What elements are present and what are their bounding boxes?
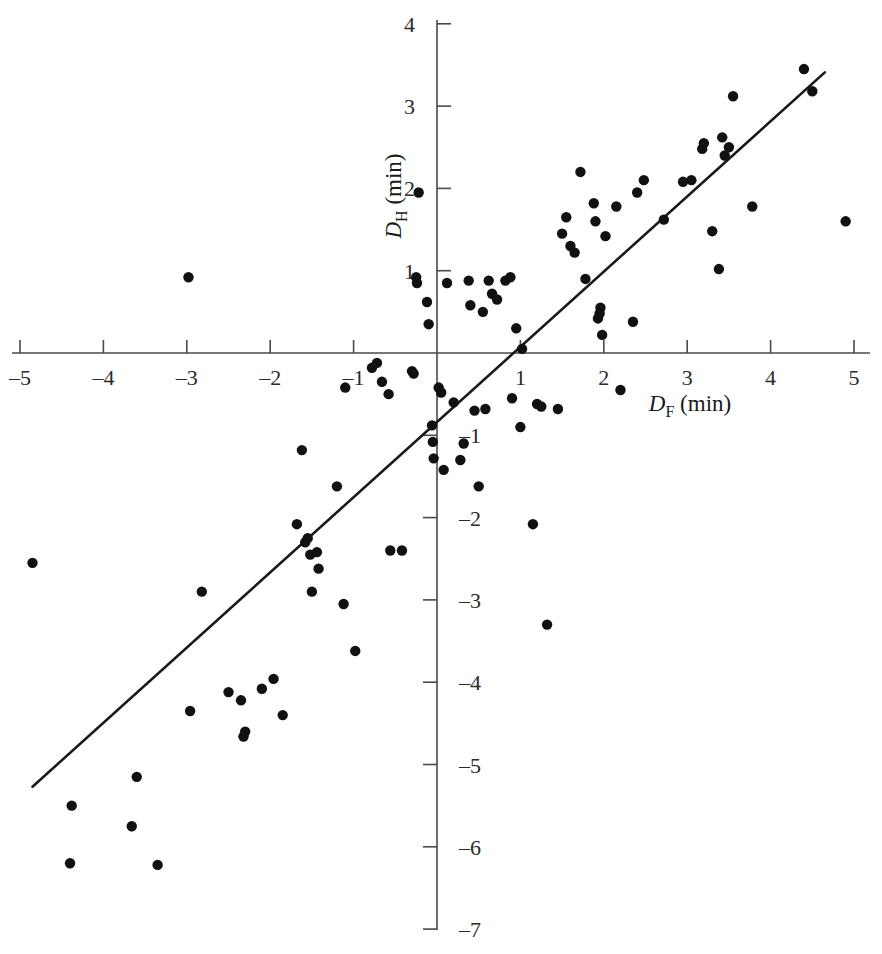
x-tick-label: 3	[682, 365, 693, 390]
data-point	[413, 187, 423, 197]
data-point	[536, 401, 546, 411]
data-point	[484, 275, 494, 285]
data-point	[340, 382, 350, 392]
y-tick-label: –4	[458, 670, 481, 695]
data-point	[542, 619, 552, 629]
data-point	[505, 272, 515, 282]
regression-line	[33, 72, 825, 786]
data-point	[474, 481, 484, 491]
x-tick-label: –5	[8, 365, 31, 390]
data-point	[152, 860, 162, 870]
data-point	[528, 519, 538, 529]
data-point	[699, 138, 709, 148]
scatter-plot-figure: –5–4–3–2–112345 4321–1–2–3–4–5–6–7 DF (m…	[0, 0, 882, 954]
data-point	[840, 216, 850, 226]
data-point	[412, 278, 422, 288]
data-point	[65, 858, 75, 868]
data-point	[436, 387, 446, 397]
data-point	[600, 231, 610, 241]
data-point	[338, 599, 348, 609]
data-point	[297, 445, 307, 455]
x-axis-ticks: –5–4–3–2–112345	[8, 340, 860, 390]
data-point	[569, 247, 579, 257]
data-point	[312, 547, 322, 557]
data-point	[469, 405, 479, 415]
axes-group	[12, 20, 870, 930]
x-tick-label: 5	[849, 365, 860, 390]
data-point	[428, 453, 438, 463]
data-point	[561, 212, 571, 222]
x-tick-label: 1	[515, 365, 526, 390]
data-point	[427, 420, 437, 430]
y-tick-label: –6	[458, 835, 481, 860]
data-point	[303, 533, 313, 543]
data-point	[807, 86, 817, 96]
data-point	[714, 264, 724, 274]
data-point	[747, 201, 757, 211]
data-point	[238, 731, 248, 741]
data-point	[724, 142, 734, 152]
data-point	[292, 519, 302, 529]
data-point	[478, 307, 488, 317]
data-point	[458, 438, 468, 448]
data-point	[659, 214, 669, 224]
data-point	[615, 385, 625, 395]
regression-line-group	[33, 72, 825, 786]
data-point	[278, 710, 288, 720]
data-point	[580, 274, 590, 284]
data-point	[463, 275, 473, 285]
data-point	[628, 317, 638, 327]
data-point	[515, 422, 525, 432]
data-point	[397, 545, 407, 555]
y-tick-label: –3	[458, 588, 481, 613]
data-point	[597, 330, 607, 340]
data-point	[197, 586, 207, 596]
data-point	[590, 216, 600, 226]
data-point	[728, 91, 738, 101]
data-point	[383, 389, 393, 399]
data-point	[557, 228, 567, 238]
data-point	[385, 545, 395, 555]
data-point	[448, 397, 458, 407]
data-point	[132, 772, 142, 782]
data-point	[707, 226, 717, 236]
data-point	[517, 344, 527, 354]
data-point	[183, 272, 193, 282]
plot-canvas: –5–4–3–2–112345 4321–1–2–3–4–5–6–7 DF (m…	[0, 0, 882, 954]
data-point	[575, 167, 585, 177]
y-tick-label: –2	[458, 506, 481, 531]
data-point	[480, 404, 490, 414]
data-point	[639, 175, 649, 185]
data-point	[423, 319, 433, 329]
x-tick-label: 2	[598, 365, 609, 390]
x-axis-title: DF (min)	[648, 391, 731, 420]
data-point	[313, 563, 323, 573]
data-point	[27, 558, 37, 568]
data-point	[127, 821, 137, 831]
x-tick-label: 4	[765, 365, 776, 390]
y-axis-title-group: DH (min)	[381, 153, 410, 239]
data-point	[428, 437, 438, 447]
data-point	[589, 198, 599, 208]
x-tick-label: –2	[258, 365, 281, 390]
data-point	[223, 687, 233, 697]
data-point	[422, 297, 432, 307]
data-point	[492, 294, 502, 304]
x-tick-label: –4	[91, 365, 114, 390]
data-point	[350, 646, 360, 656]
data-point	[455, 455, 465, 465]
y-axis-title: DH (min)	[381, 153, 410, 239]
data-point	[185, 706, 195, 716]
data-point	[307, 586, 317, 596]
data-point	[511, 323, 521, 333]
y-tick-label: –7	[458, 917, 481, 942]
data-point	[717, 132, 727, 142]
data-point	[507, 393, 517, 403]
data-point	[332, 481, 342, 491]
data-point	[67, 800, 77, 810]
y-tick-label: 3	[404, 94, 415, 119]
data-point	[377, 377, 387, 387]
x-tick-label: –3	[175, 365, 198, 390]
data-point	[595, 303, 605, 313]
data-point	[611, 201, 621, 211]
